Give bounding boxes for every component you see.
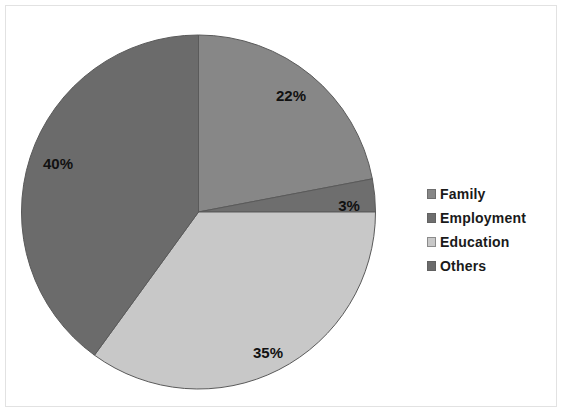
legend-item-others[interactable]: Others bbox=[427, 254, 557, 278]
slice-label-family: 22% bbox=[276, 87, 306, 104]
legend-swatch-icon bbox=[427, 189, 436, 199]
slice-label-others: 40% bbox=[43, 155, 73, 172]
legend-item-employment[interactable]: Employment bbox=[427, 206, 557, 230]
legend-swatch-icon bbox=[427, 213, 436, 223]
legend-item-family[interactable]: Family bbox=[427, 182, 557, 206]
legend-item-education[interactable]: Education bbox=[427, 230, 557, 254]
pie-slices bbox=[21, 35, 375, 389]
legend-swatch-icon bbox=[427, 261, 436, 271]
slice-label-employment: 3% bbox=[338, 197, 360, 214]
legend-swatch-icon bbox=[427, 237, 436, 247]
chart-legend: FamilyEmploymentEducationOthers bbox=[427, 182, 557, 278]
slice-label-education: 35% bbox=[253, 344, 283, 361]
legend-item-label: Others bbox=[440, 258, 486, 274]
legend-item-label: Employment bbox=[440, 210, 526, 226]
pie-chart: 22% 3% 35% 40% FamilyEmploymentEducation… bbox=[0, 0, 564, 414]
legend-item-label: Education bbox=[440, 234, 509, 250]
chart-page: 22% 3% 35% 40% FamilyEmploymentEducation… bbox=[0, 0, 564, 414]
legend-item-label: Family bbox=[440, 186, 486, 202]
